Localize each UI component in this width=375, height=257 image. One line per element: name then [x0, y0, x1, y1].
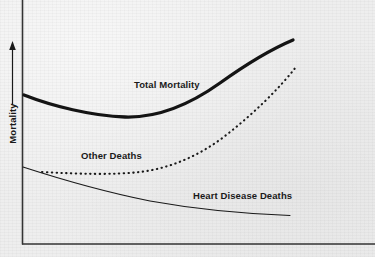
mortality-chart-figure: Mortality Total Mortality Other Deaths H…	[0, 0, 375, 257]
series-label-other-deaths: Other Deaths	[81, 150, 142, 161]
y-axis-label: Mortality	[7, 92, 18, 156]
series-label-total-mortality: Total Mortality	[134, 79, 200, 90]
chart-plot-area	[0, 0, 375, 257]
series-label-heart-disease-deaths: Heart Disease Deaths	[193, 190, 292, 201]
